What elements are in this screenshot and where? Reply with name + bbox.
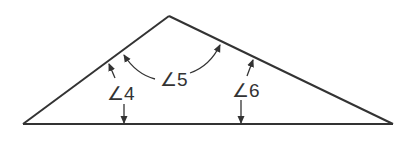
angle-4-arrow-up [109, 64, 115, 78]
diagram-svg: ∠4 ∠5 ∠6 [0, 0, 410, 149]
angle-5-arc-left [124, 55, 155, 79]
angle-6-label: ∠6 [232, 80, 260, 101]
angle-4-label: ∠4 [107, 83, 135, 104]
triangle-left-side [23, 16, 169, 124]
angle-4-marker: ∠4 [107, 64, 135, 123]
angle-5-arc-right [190, 45, 220, 73]
triangle-right-side [169, 16, 393, 124]
triangle-angle-diagram: ∠4 ∠5 ∠6 [0, 0, 410, 149]
triangle [23, 16, 393, 124]
angle-6-marker: ∠6 [232, 60, 260, 123]
angle-5-label: ∠5 [160, 69, 188, 90]
angle-6-arrow-up [247, 60, 253, 76]
angle-5-marker: ∠5 [124, 45, 220, 90]
